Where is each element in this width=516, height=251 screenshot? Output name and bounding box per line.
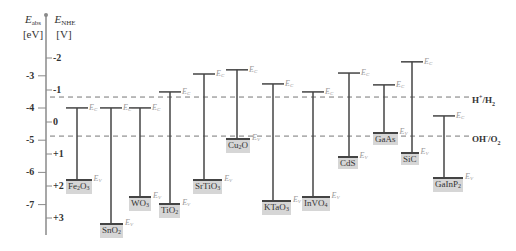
cb-tag: EC xyxy=(285,79,293,90)
cb-tag: EC xyxy=(152,103,160,114)
diagram-canvas xyxy=(0,0,516,251)
nhe-tick-label: +3 xyxy=(53,213,64,223)
abs-axis-unit: [eV] xyxy=(20,28,46,40)
vb-tag: EV xyxy=(465,172,473,183)
abs-axis-title: Eabs xyxy=(22,13,44,29)
vb-tag: EV xyxy=(360,151,368,162)
nhe-axis-subscript: NHE xyxy=(61,19,75,27)
cb-tag: EC xyxy=(89,103,97,114)
cb-tag: EC xyxy=(396,80,404,91)
abs-tick-label: -5 xyxy=(26,135,34,145)
abs-tick-label: -3 xyxy=(26,71,34,81)
cb-tag: EC xyxy=(123,103,131,114)
nhe-tick-label: +1 xyxy=(53,149,64,159)
material-label: KTaO3 xyxy=(262,200,291,215)
vb-tag: EV xyxy=(400,127,408,138)
material-label: Fe2O3 xyxy=(66,179,92,194)
material-label: SnO2 xyxy=(100,223,123,238)
cb-tag: EC xyxy=(456,111,464,122)
cb-tag: EC xyxy=(216,69,224,80)
material-label: CdS xyxy=(338,156,358,169)
cb-tag: EC xyxy=(182,87,190,98)
material-label: TiO2 xyxy=(159,203,180,218)
cb-tag: EC xyxy=(325,87,333,98)
redox-label: OH-/O2 xyxy=(472,131,501,148)
vb-tag: EV xyxy=(224,174,232,185)
cb-tag: EC xyxy=(424,57,432,68)
material-label: Cu2O xyxy=(226,138,250,153)
material-label: SiC xyxy=(401,152,419,165)
cb-tag: EC xyxy=(361,68,369,79)
material-label: GaAs xyxy=(373,132,398,145)
nhe-tick-label: -2 xyxy=(53,53,61,63)
nhe-axis-title: ENHE xyxy=(50,13,80,29)
material-label: WO3 xyxy=(129,196,151,211)
abs-tick-label: -7 xyxy=(26,200,34,210)
redox-label: H+/H2 xyxy=(472,92,495,109)
nhe-tick-label: 0 xyxy=(53,117,58,127)
abs-tick-label: -4 xyxy=(26,103,34,113)
abs-axis-symbol: E xyxy=(25,13,32,25)
vb-tag: EV xyxy=(125,218,133,229)
vb-tag: EV xyxy=(421,147,429,158)
band-diagram: Eabs [eV] ENHE [V] -3-4-5-6-7-2-10+1+2+3… xyxy=(0,0,516,251)
nhe-tick-label: -1 xyxy=(53,85,61,95)
abs-axis-subscript: abs xyxy=(32,19,41,27)
vb-tag: EV xyxy=(153,191,161,202)
vb-tag: EV xyxy=(182,198,190,209)
material-label: InVO4 xyxy=(302,196,330,211)
vb-tag: EV xyxy=(252,133,260,144)
material-label: SrTiO3 xyxy=(193,179,222,194)
vb-tag: EV xyxy=(94,174,102,185)
vb-tag: EV xyxy=(332,191,340,202)
cb-tag: EC xyxy=(249,65,257,76)
nhe-tick-label: +2 xyxy=(53,181,64,191)
material-label: GaInP2 xyxy=(433,177,463,192)
abs-tick-label: -6 xyxy=(26,167,34,177)
vb-tag: EV xyxy=(293,195,301,206)
nhe-axis-unit: [V] xyxy=(52,28,76,40)
axis-top-dot xyxy=(44,13,48,17)
